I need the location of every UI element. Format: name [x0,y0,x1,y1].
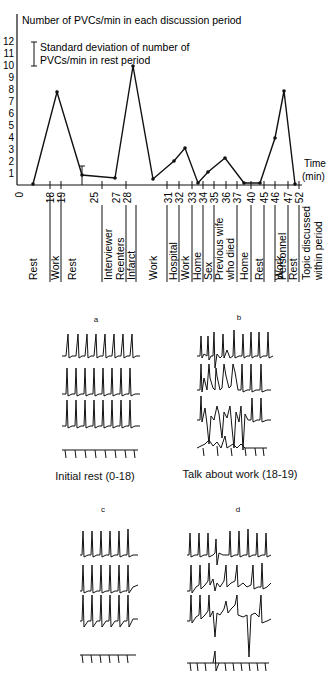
ecg-panel-b [195,328,295,463]
svg-text:Topic discussed: Topic discussed [300,206,312,280]
svg-text:28: 28 [122,192,133,204]
svg-text:45: 45 [259,192,270,204]
svg-text:12: 12 [3,36,15,47]
svg-text:Rest: Rest [287,258,299,280]
ecg-panel-a [60,330,160,460]
svg-text:0: 0 [14,192,25,198]
svg-text:Work: Work [147,255,159,280]
x-tick-labels: 0 18 19 25 27 28 31 32 33 34 35 36 37 40… [14,192,305,204]
svg-text:Rest: Rest [253,258,265,280]
svg-text:Work: Work [49,255,61,280]
ecg-caption-b: Talk about work (18-19) [175,468,305,480]
svg-text:Rest: Rest [27,258,39,280]
chart-title: Number of PVCs/min in each discussion pe… [22,14,242,26]
svg-text:7: 7 [8,96,14,107]
legend-sd-bar [31,42,37,66]
svg-text:31: 31 [163,192,174,204]
svg-text:36: 36 [221,192,232,204]
ecg-panel-c [78,525,158,670]
legend-line2: PVCs/min in rest period [40,54,150,66]
svg-text:32: 32 [174,192,185,204]
ecg-caption-a: Initial rest (0-18) [40,470,150,482]
svg-text:35: 35 [209,192,220,204]
svg-text:3: 3 [8,144,14,155]
svg-text:8: 8 [8,84,14,95]
panel-letter-d: d [228,505,248,514]
svg-text:2: 2 [8,156,14,167]
topic-labels: Rest Work Rest Interviewer Reenters Infa… [27,206,324,281]
svg-text:5: 5 [8,120,14,131]
svg-text:47: 47 [283,192,294,204]
ecg-panel-d [185,525,285,675]
svg-text:46: 46 [270,192,281,204]
svg-text:Interviewer: Interviewer [102,228,114,280]
legend-line1: Standard deviation of number of [40,41,190,53]
x-axis-label-time: Time [304,158,326,169]
svg-text:Rest: Rest [66,258,78,280]
svg-text:Hospital: Hospital [167,242,179,280]
svg-text:34: 34 [198,192,209,204]
svg-text:27: 27 [111,192,122,204]
svg-text:who died: who died [224,238,236,281]
panel-letter-b: b [229,313,249,322]
svg-text:1: 1 [8,168,14,179]
svg-text:25: 25 [89,192,100,204]
svg-text:52: 52 [294,192,305,204]
svg-text:10: 10 [3,60,15,71]
svg-text:40: 40 [246,192,257,204]
svg-text:37: 37 [232,192,243,204]
svg-text:Work: Work [179,255,191,280]
pvc-series-line [33,66,295,184]
svg-text:11: 11 [4,48,15,59]
svg-text:33: 33 [187,192,198,204]
svg-text:6: 6 [8,108,14,119]
svg-text:9: 9 [8,72,14,83]
svg-text:4: 4 [8,132,14,143]
svg-text:Infarct: Infarct [125,251,137,280]
y-tick-labels: 1 2 3 4 5 6 7 8 9 10 11 12 [3,36,15,179]
panel-letter-a: a [86,315,106,324]
svg-text:Home: Home [238,252,250,280]
pvc-line-chart: Number of PVCs/min in each discussion pe… [0,0,334,290]
pvc-series-markers [31,64,297,186]
svg-text:within period: within period [312,221,324,281]
panel-letter-c: c [93,505,113,514]
x-axis-label-min: (min) [302,171,325,182]
